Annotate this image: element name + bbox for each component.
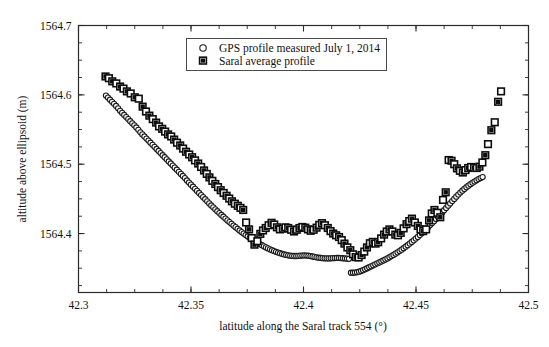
y-tick-label: 1564.5 [40, 158, 72, 170]
data-point-saral-fill [428, 219, 431, 222]
data-point-saral-fill [490, 129, 493, 132]
data-point-saral-fill [444, 191, 447, 194]
data-point-saral [243, 219, 250, 226]
data-point-saral-fill [484, 154, 487, 157]
data-point-saral [498, 88, 505, 95]
x-tick-label: 42.35 [178, 299, 204, 311]
chart-canvas: 42.342.3542.442.4542.5 1564.71564.61564.… [0, 0, 549, 347]
legend-marker-circle-icon [200, 45, 206, 51]
series-gps-points [103, 93, 485, 275]
legend-marker-square-inner-icon [202, 59, 205, 62]
chart-legend: GPS profile measured July 1, 2014 Saral … [187, 39, 387, 71]
data-point-saral [491, 119, 498, 126]
data-point-saral [479, 159, 486, 166]
data-point-saral-fill [242, 208, 245, 211]
legend-label-saral: Saral average profile [219, 55, 315, 68]
x-tick-label: 42.45 [403, 299, 429, 311]
x-tick-label: 42.3 [68, 299, 88, 311]
data-point-saral [485, 141, 492, 148]
legend-label-gps: GPS profile measured July 1, 2014 [219, 42, 380, 55]
data-point-saral-fill [497, 100, 500, 103]
x-axis-title: latitude along the Saral track 554 (°) [219, 320, 387, 333]
y-axis-title: altitude above ellipsoid (m) [16, 95, 29, 222]
x-tick-label: 42.4 [293, 299, 313, 311]
x-tick-label: 42.5 [518, 299, 538, 311]
data-point-saral [440, 197, 447, 204]
y-tick-label: 1564.7 [40, 20, 72, 32]
y-tick-label: 1564.4 [40, 228, 72, 240]
series-saral-points [102, 73, 504, 261]
x-tick-labels: 42.342.3542.442.4542.5 [68, 299, 538, 311]
data-point-saral [423, 226, 430, 233]
data-point-saral [136, 95, 143, 102]
y-tick-labels: 1564.71564.61564.51564.4 [40, 20, 72, 240]
data-point-saral-fill [248, 228, 251, 231]
y-tick-label: 1564.6 [40, 89, 72, 101]
figure-container: 42.342.3542.442.4542.5 1564.71564.61564.… [0, 0, 549, 347]
data-point-saral [254, 238, 261, 245]
data-point-gps [480, 174, 485, 179]
data-point-saral-fill [439, 216, 442, 219]
